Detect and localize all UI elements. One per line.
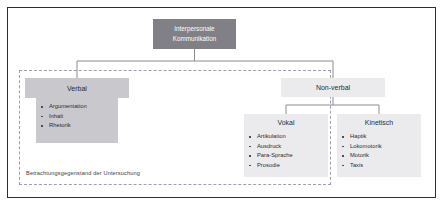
node-verbal-body: Argumentation Inhalt Rhetorik	[36, 98, 118, 143]
node-kinetisch-label: Kinetisch	[337, 114, 421, 131]
list-item: Ausdruck	[244, 142, 328, 152]
node-verbal[interactable]: Verbal Argumentation Inhalt Rhetorik	[25, 78, 129, 143]
list-item: Argumentation	[36, 102, 118, 112]
node-interpersonale-kommunikation[interactable]: Interpersonale Kommunikation	[153, 19, 236, 49]
node-kinetisch-body: Haptik Lokomotorik Motorik Taxis	[337, 131, 421, 170]
kinetisch-item-list: Haptik Lokomotorik Motorik Taxis	[337, 132, 421, 170]
list-item: Motorik	[337, 151, 421, 161]
node-verbal-label: Verbal	[25, 78, 129, 98]
verbal-item-list: Argumentation Inhalt Rhetorik	[36, 102, 118, 131]
node-kinetisch[interactable]: Kinetisch Haptik Lokomotorik Motorik Tax…	[337, 114, 421, 177]
node-vokal-body: Artikulation Ausdruck Para-Sprache Proso…	[244, 131, 328, 170]
list-item: Rhetorik	[36, 121, 118, 131]
list-item: Para-Sprache	[244, 151, 328, 161]
node-vokal[interactable]: Vokal Artikulation Ausdruck Para-Sprache…	[244, 114, 328, 177]
node-vokal-label: Vokal	[244, 114, 328, 131]
node-non-verbal[interactable]: Non-verbal	[281, 78, 385, 97]
node-root-label-line2: Kommunikation	[173, 34, 216, 44]
vokal-item-list: Artikulation Ausdruck Para-Sprache Proso…	[244, 132, 328, 170]
list-item: Taxis	[337, 161, 421, 171]
list-item: Lokomotorik	[337, 142, 421, 152]
list-item: Inhalt	[36, 112, 118, 122]
scope-caption: Betrachtungsgegenstand der Untersuchung	[26, 170, 140, 176]
list-item: Artikulation	[244, 132, 328, 142]
list-item: Prosodie	[244, 161, 328, 171]
node-non-verbal-label: Non-verbal	[316, 84, 350, 91]
diagram-canvas: Betrachtungsgegenstand der Untersuchung …	[0, 0, 445, 208]
node-root-label-line1: Interpersonale	[174, 24, 214, 34]
list-item: Haptik	[337, 132, 421, 142]
